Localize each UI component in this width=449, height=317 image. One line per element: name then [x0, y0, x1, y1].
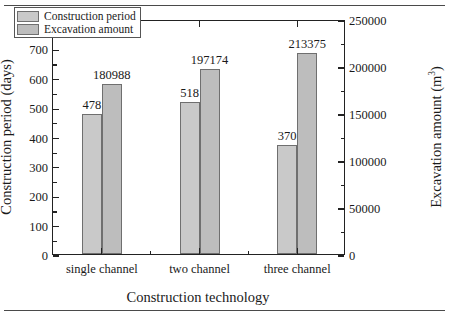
legend-label-construction-period: Construction period: [44, 10, 136, 22]
left-axis-tick-label: 0: [42, 250, 48, 263]
left-axis-minor-tick: [53, 94, 57, 95]
plot-inner: 0100200300400500600700800050000100000150…: [53, 21, 344, 254]
right-axis-tick-label: 50000: [349, 203, 380, 216]
bar-value-label-excavation-amount: 180988: [93, 68, 131, 83]
right-y-axis-title: Excavation amount (m3): [427, 66, 445, 208]
legend-item-excavation-amount: Excavation amount: [17, 23, 136, 35]
left-axis-tick: [53, 50, 59, 51]
x-axis-title: Construction technology: [127, 289, 270, 306]
x-axis-minor-tick: [150, 251, 151, 255]
bar-excavation-amount: 197174: [200, 69, 220, 254]
left-axis-tick-label: 600: [29, 74, 48, 87]
right-y-axis-title-exponent: 3: [427, 71, 437, 76]
right-axis-tick: [338, 255, 344, 256]
bar-construction-period: 370: [277, 145, 297, 254]
right-axis-minor-tick: [341, 232, 345, 233]
x-axis-tick: [297, 248, 298, 254]
right-axis-minor-tick: [341, 91, 345, 92]
left-axis-tick: [53, 109, 59, 110]
left-axis-tick: [53, 138, 59, 139]
bar-construction-period: 518: [180, 102, 200, 254]
x-axis-category-label: two channel: [169, 263, 230, 276]
bar-value-label-construction-period: 518: [180, 86, 199, 101]
bar-excavation-amount: 213375: [297, 53, 317, 254]
left-axis-tick: [53, 255, 59, 256]
left-axis-minor-tick: [53, 64, 57, 65]
right-axis-tick-label: 0: [349, 250, 355, 263]
bar-construction-period: 478: [82, 114, 102, 254]
right-axis-tick: [338, 208, 344, 209]
x-axis-category-label: single channel: [66, 263, 138, 276]
right-axis-tick-label: 250000: [349, 15, 387, 28]
right-axis-tick: [338, 67, 344, 68]
x-axis-top-tick: [297, 21, 298, 27]
left-axis-tick-label: 500: [29, 103, 48, 116]
bar-value-label-construction-period: 370: [278, 129, 297, 144]
x-axis-minor-tick: [248, 251, 249, 255]
left-axis-tick: [53, 167, 59, 168]
left-axis-tick-label: 100: [29, 220, 48, 233]
left-axis-minor-tick: [53, 123, 57, 124]
left-axis-tick-label: 300: [29, 162, 48, 175]
bar-excavation-amount: 180988: [102, 84, 122, 254]
left-axis-minor-tick: [53, 153, 57, 154]
right-axis-tick: [338, 20, 344, 21]
right-axis-tick-label: 200000: [349, 62, 387, 75]
right-axis-tick: [338, 114, 344, 115]
legend-item-construction-period: Construction period: [17, 10, 136, 22]
left-axis-minor-tick: [53, 211, 57, 212]
left-axis-tick: [53, 79, 59, 80]
right-y-axis-title-main: Excavation amount (m: [428, 76, 444, 208]
bar-group: 370213375: [277, 53, 317, 254]
x-axis-tick: [101, 248, 102, 254]
right-axis-minor-tick: [341, 185, 345, 186]
right-axis-tick-label: 150000: [349, 109, 387, 122]
left-axis-tick-label: 400: [29, 132, 48, 145]
x-axis-top-tick: [199, 21, 200, 27]
bar-value-label-excavation-amount: 197174: [191, 53, 229, 68]
right-y-axis-title-tail: ): [428, 66, 444, 71]
top-divider-rule: [4, 5, 445, 6]
bar-group: 478180988: [82, 84, 122, 254]
plot-area: 0100200300400500600700800050000100000150…: [52, 20, 345, 255]
left-axis-minor-tick: [53, 182, 57, 183]
bar-value-label-construction-period: 478: [82, 98, 101, 113]
legend-label-excavation-amount: Excavation amount: [44, 23, 133, 35]
bar-value-label-excavation-amount: 213375: [288, 37, 326, 52]
right-axis-minor-tick: [341, 138, 345, 139]
x-axis-tick: [199, 248, 200, 254]
left-axis-minor-tick: [53, 241, 57, 242]
right-axis-tick-label: 100000: [349, 156, 387, 169]
chart-figure: Construction period (days) Excavation am…: [0, 0, 449, 317]
chart-legend: Construction period Excavation amount: [14, 7, 141, 38]
left-axis-tick: [53, 226, 59, 227]
right-axis-minor-tick: [341, 44, 345, 45]
left-axis-tick: [53, 197, 59, 198]
legend-swatch-excavation-amount: [17, 24, 39, 35]
left-y-axis-title: Construction period (days): [0, 59, 15, 214]
left-axis-tick-label: 700: [29, 44, 48, 57]
x-axis-category-label: three channel: [264, 263, 331, 276]
right-axis-tick: [338, 161, 344, 162]
bar-group: 518197174: [180, 69, 220, 254]
legend-swatch-construction-period: [17, 11, 39, 22]
bottom-divider-rule: [4, 310, 445, 311]
left-axis-tick-label: 200: [29, 191, 48, 204]
